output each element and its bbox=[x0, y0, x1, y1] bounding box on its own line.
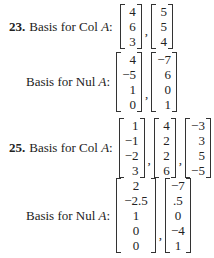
problem-23-nul: Basis for Nul A: 4−510 , −7601 bbox=[26, 52, 178, 112]
col-label: 23.Basis for Col A: bbox=[9, 19, 113, 35]
problem-25-nul: Basis for Nul A: 2−2.5100 , −7.50−41 bbox=[26, 178, 192, 253]
problem-25-col: 25.Basis for Col A: 1−1−23 , 4226 , −335… bbox=[9, 118, 212, 178]
vector: 4−510 bbox=[116, 52, 142, 112]
nul-label: Basis for Nul A: bbox=[26, 208, 110, 224]
problem-23-col: 23.Basis for Col A: 463 , 554 bbox=[9, 4, 174, 49]
vector: 2−2.5100 bbox=[116, 178, 156, 253]
vector: −7.50−41 bbox=[165, 178, 191, 253]
nul-label: Basis for Nul A: bbox=[26, 74, 110, 90]
col-label: 25.Basis for Col A: bbox=[9, 140, 113, 156]
vector: 1−1−23 bbox=[119, 118, 145, 178]
vector: 4226 bbox=[154, 118, 176, 178]
vector: −335−5 bbox=[185, 118, 211, 178]
vector: −7601 bbox=[151, 52, 177, 112]
vector: 463 bbox=[120, 4, 142, 49]
vector: 554 bbox=[151, 4, 173, 49]
